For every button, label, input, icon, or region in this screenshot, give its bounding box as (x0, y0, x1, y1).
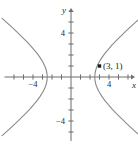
x-axis-label: x (131, 80, 136, 90)
x-tick-label: −4 (28, 79, 38, 89)
x-axis (5, 74, 136, 79)
x-axis-arrowhead (131, 74, 135, 79)
point-annotations: (3, 1) (98, 61, 123, 71)
y-axis (68, 8, 73, 141)
coordinate-plane: −444−4 x y (3, 1) (0, 0, 138, 148)
x-tick-label: 4 (107, 79, 112, 89)
data-point-marker (98, 64, 101, 67)
hyperbola-graph-figure: −444−4 x y (3, 1) (0, 0, 138, 148)
y-axis-label: y (61, 5, 66, 15)
curve-left-branch (2, 18, 47, 77)
data-point-label: (3, 1) (103, 61, 123, 71)
y-tick-label: −4 (56, 116, 66, 126)
curve-left-branch-lower (2, 77, 47, 136)
y-axis-arrowhead (68, 8, 73, 12)
y-tick-label: 4 (61, 28, 66, 38)
